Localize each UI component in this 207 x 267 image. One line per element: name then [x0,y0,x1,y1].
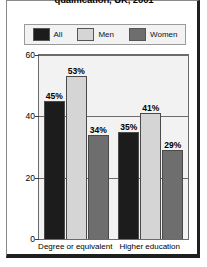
x-category-label-2: Higher education [120,242,180,251]
bar-all-group2: 35% [118,132,139,239]
bars-layer: 45%53%34%35%41%29% [39,55,188,239]
legend-label-all: All [54,30,63,39]
legend-swatch-all [33,28,50,41]
gridline-0 [39,239,188,240]
bar-value-label: 35% [120,122,137,132]
ytick-label-60: 60 [26,50,35,60]
bar-men-group1: 53% [66,76,87,239]
bar-value-label: 53% [68,66,85,76]
legend-label-men: Men [98,30,114,39]
ytick-label-20: 20 [26,173,35,183]
legend-item-men: Men [77,28,114,41]
bar-women-group2: 29% [162,150,183,239]
chart-title-line: qualification, UK, 2001 [7,0,201,5]
legend-item-all: All [33,28,63,41]
ytick-mark-0 [35,239,39,240]
legend-swatch-women [129,28,146,41]
ytick-label-40: 40 [26,111,35,121]
legend-swatch-men [77,28,94,41]
x-category-label-1: Degree or equivalent [38,242,112,251]
legend-label-women: Women [150,30,177,39]
bar-value-label: 29% [164,140,181,150]
chart-title: qualification, UK, 2001 [7,0,201,5]
bar-all-group1: 45% [44,101,65,239]
bar-value-label: 34% [90,125,107,135]
plot-area: 0204060 45%53%34%35%41%29% [38,54,189,240]
figure-card: qualification, UK, 2001 All Men Women 02… [6,0,200,258]
legend-item-women: Women [129,28,177,41]
chart-legend: All Men Women [24,24,186,45]
ytick-label-0: 0 [30,234,35,244]
bar-value-label: 41% [142,103,159,113]
bar-men-group2: 41% [140,113,161,239]
bar-women-group1: 34% [88,135,109,239]
bar-value-label: 45% [46,91,63,101]
